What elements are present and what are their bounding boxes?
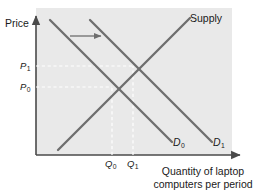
x-axis-label-line2: computers per period (146, 178, 260, 191)
quantity-1-subscript: 1 (135, 163, 139, 170)
quantity-1-tick-label: Q1 (127, 159, 138, 169)
demand-1-letter: D (213, 136, 221, 148)
demand-0-curve-label: D0 (173, 137, 184, 148)
price-0-subscript: 0 (27, 86, 31, 93)
demand-0-subscript: 0 (181, 142, 185, 149)
x-axis-label-line1: Quantity of laptop (146, 165, 260, 178)
supply-curve-label: Supply (190, 13, 222, 24)
quantity-1-letter: Q (127, 158, 134, 169)
y-axis-label: Price (5, 18, 29, 29)
quantity-0-letter: Q (105, 158, 112, 169)
demand-0-letter: D (173, 136, 181, 148)
demand-1-curve-label: D1 (213, 137, 224, 148)
quantity-0-subscript: 0 (113, 163, 117, 170)
demand-1-subscript: 1 (221, 142, 225, 149)
supply-demand-diagram: Price Supply D0 D1 P1 P0 Q0 Q1 Quantity … (0, 0, 260, 192)
price-0-letter: P (20, 81, 26, 92)
price-1-subscript: 1 (27, 65, 31, 72)
price-1-letter: P (20, 60, 26, 71)
price-0-tick-label: P0 (20, 82, 30, 92)
x-axis-label: Quantity of laptop computers per period (146, 165, 260, 190)
price-1-tick-label: P1 (20, 61, 30, 71)
quantity-0-tick-label: Q0 (105, 159, 116, 169)
